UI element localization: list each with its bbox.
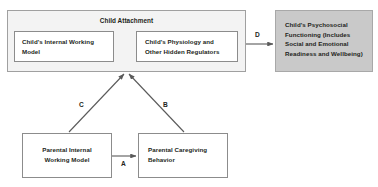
- edge-label-a: A: [121, 160, 126, 167]
- node-child-internal-working-model[interactable]: Child's Internal Working Model: [14, 31, 114, 62]
- edge-label-c: C: [79, 101, 84, 108]
- node-parental-internal-working-model[interactable]: Parental Internal Working Model: [22, 133, 112, 178]
- edge-label-b: B: [163, 101, 168, 108]
- node-child-physiology[interactable]: Child's Physiology and Other Hidden Regu…: [136, 31, 238, 62]
- edge-c: [69, 74, 124, 132]
- edge-label-d: D: [255, 31, 260, 38]
- diagram-canvas: Child Attachment Child's Internal Workin…: [0, 0, 378, 187]
- node-parental-caregiving-behavior[interactable]: Parental Caregiving Behavior: [138, 133, 228, 178]
- edge-b: [129, 74, 184, 132]
- node-child-psychosocial-functioning[interactable]: Child's Psychosocial Functioning (Includ…: [275, 10, 373, 72]
- child-attachment-title: Child Attachment: [8, 16, 245, 26]
